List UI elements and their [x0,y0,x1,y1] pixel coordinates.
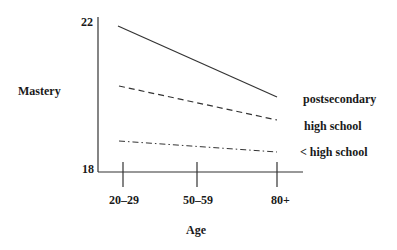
y-tick-18: 18 [82,162,94,177]
x-axis-label: Age [186,223,206,238]
series-high-school [119,86,277,120]
x-tick-label-2: 80+ [271,193,290,208]
y-tick-22: 22 [81,15,93,30]
x-tick-label-1: 50–59 [183,193,213,208]
legend-high-school: high school [304,119,362,134]
y-axis-label: Mastery [18,84,61,99]
x-tick-label-0: 20–29 [109,193,139,208]
series-postsecondary [118,26,277,97]
legend-postsecondary: postsecondary [303,92,376,107]
legend-less-than-high-school: < high school [300,145,368,160]
series-less-than-high-school [119,141,277,152]
